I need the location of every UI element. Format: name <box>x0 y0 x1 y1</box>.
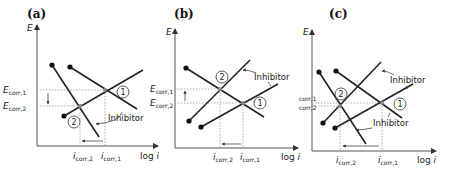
ecorr1-label-b: Ecorr,1 <box>150 84 173 95</box>
icorr2-label-b: icorr,2 <box>213 152 233 163</box>
inhibitor-label-top-c: Inhibitor <box>390 75 426 85</box>
panel-label-c: (c) <box>329 7 348 21</box>
x-axis-label-b: log i <box>281 152 301 162</box>
point-2-label-c: 2 <box>339 90 344 99</box>
panel-c: (c) E 1 2 Inhibitor Inhibitor corr,1 <box>299 7 437 166</box>
inhibitor-diagram: (a) E 1 2 Inhibitor Ecorr,1 Ecorr,2 <box>0 0 454 172</box>
ecorr2-label-b: Ecorr,2 <box>150 98 173 109</box>
y-axis-label-a: E <box>27 23 33 33</box>
ecorr1-label-a: Ecorr,1 <box>3 85 26 96</box>
icorr2-label-c: icorr,2 <box>336 155 356 166</box>
icorr1-label-c: icorr,1 <box>378 155 398 166</box>
point-1-label-c: 1 <box>398 100 403 109</box>
point-2-label-a: 2 <box>72 118 77 127</box>
cathodic-line-inhibited-c <box>319 72 366 144</box>
anodic-line-original-b <box>201 84 278 127</box>
icorr2-label-a: icorr,2 <box>73 151 93 162</box>
icorr1-label-a: icorr,1 <box>101 151 121 162</box>
panel-label-b: (b) <box>174 7 194 21</box>
panel-label-a: (a) <box>27 7 46 21</box>
inhibitor-label-a: Inhibitor <box>108 113 144 123</box>
y-axis-label-c: E <box>303 27 309 37</box>
ecorr1-label-c: corr,1 <box>299 95 317 102</box>
point-2-label-b: 2 <box>220 73 225 82</box>
panel-a: (a) E 1 2 Inhibitor Ecorr,1 Ecorr,2 <box>3 7 160 162</box>
x-axis-label-c: log i <box>417 155 437 165</box>
point-1-label-a: 1 <box>121 88 126 97</box>
y-axis-label-b: E <box>166 27 172 37</box>
panel-b: (b) E 1 2 Inhibitor Ecorr,1 Ecorr,2 icor… <box>150 7 301 163</box>
point-1-label-b: 1 <box>258 99 263 108</box>
icorr1-label-b: icorr,1 <box>240 152 260 163</box>
inhibitor-label-b: Inhibitor <box>254 72 290 82</box>
ecorr2-label-c: corr,2 <box>299 104 317 111</box>
ecorr2-label-a: Ecorr,2 <box>3 101 26 112</box>
anodic-line-a <box>64 70 143 116</box>
x-axis-label-a: log i <box>140 151 160 161</box>
inhibitor-label-bottom-c: Inhibitor <box>373 118 409 128</box>
